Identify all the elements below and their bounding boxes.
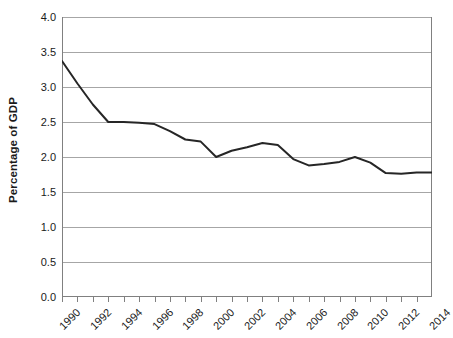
x-axis-tick-label: 2012: [396, 306, 422, 332]
line-chart-svg: [62, 17, 432, 303]
y-axis-tick-label: 4.0: [22, 11, 56, 23]
y-axis-tick-label: 3.0: [22, 81, 56, 93]
y-axis-tick-label: 1.5: [22, 186, 56, 198]
x-axis-tick-labels: 1990199219941996199820002002200420062008…: [62, 297, 432, 338]
x-axis-tick-label: 1990: [57, 306, 83, 332]
x-axis-tick-label: 1998: [180, 306, 206, 332]
y-axis-title-text: Percentage of GDP: [7, 97, 19, 203]
x-axis-tick-label: 1994: [118, 306, 144, 332]
y-axis-tick-labels: 0.00.51.01.52.02.53.03.54.0: [22, 0, 56, 300]
x-axis-tick-label: 2014: [427, 306, 453, 332]
plot-area: [62, 17, 432, 297]
y-axis-tick-label: 0.5: [22, 256, 56, 268]
y-axis-tick-label: 1.0: [22, 221, 56, 233]
x-axis-tick-label: 2000: [211, 306, 237, 332]
y-axis-tick-label: 3.5: [22, 46, 56, 58]
x-axis-tick-label: 2004: [273, 306, 299, 332]
gridlines: [62, 18, 432, 263]
y-axis-tick-label: 0.0: [22, 291, 56, 303]
y-axis-tick-label: 2.5: [22, 116, 56, 128]
x-axis-tick-label: 2010: [365, 306, 391, 332]
x-axis-tick-label: 2006: [303, 306, 329, 332]
y-axis-tick-label: 2.0: [22, 151, 56, 163]
x-axis-tick-label: 1992: [88, 306, 114, 332]
data-series-line: [62, 61, 432, 174]
x-axis-tick-label: 2002: [242, 306, 268, 332]
x-axis-tick-label: 2008: [334, 306, 360, 332]
x-axis-tick-label: 1996: [149, 306, 175, 332]
